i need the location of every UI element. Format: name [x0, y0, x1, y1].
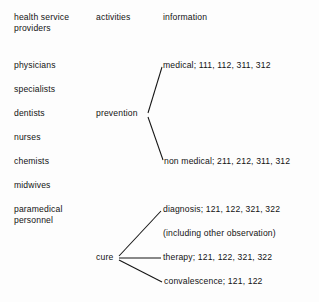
provider-item-personnel: personnel [14, 215, 53, 226]
provider-item-physicians: physicians [14, 60, 56, 71]
link-prevention-medical [148, 67, 162, 113]
classification-diagram: health service providers activities info… [0, 0, 319, 302]
provider-item-paramedical: paramedical [14, 204, 62, 215]
link-cure-convalescence [119, 260, 162, 282]
provider-item-chemists: chemists [14, 156, 49, 167]
link-cure-diagnosis [119, 211, 161, 256]
activity-item-cure: cure [96, 252, 113, 263]
provider-item-nurses: nurses [14, 132, 41, 143]
information-item-including-observation: (including other observation) [163, 228, 276, 239]
column-header-providers-line1: health service [14, 12, 69, 23]
column-header-activities: activities [96, 12, 130, 23]
provider-item-midwives: midwives [14, 180, 51, 191]
activity-item-prevention: prevention [96, 108, 138, 119]
information-item-diagnosis: diagnosis; 121, 122, 321, 322 [163, 204, 280, 215]
information-item-therapy: therapy; 121, 122, 321, 322 [163, 252, 272, 263]
information-item-convalescence: convalescence; 121, 122 [164, 276, 263, 287]
column-header-information: information [163, 12, 207, 23]
information-item-non-medical: non medical; 211, 212, 311, 312 [164, 156, 290, 167]
provider-item-specialists: specialists [14, 84, 55, 95]
column-header-providers-line2: providers [14, 23, 51, 34]
link-prevention-nonmedical [148, 117, 163, 160]
information-item-medical: medical; 111, 112, 311, 312 [163, 60, 271, 71]
provider-item-dentists: dentists [14, 108, 45, 119]
